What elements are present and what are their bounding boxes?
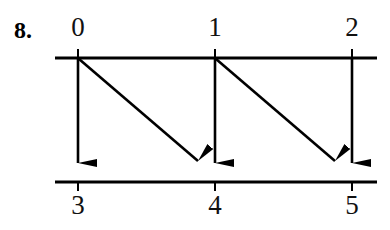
- arrow-1-to-5: [216, 59, 335, 161]
- node-label-0: 0: [58, 14, 98, 41]
- node-label-4: 4: [195, 192, 235, 219]
- node-label-3: 3: [58, 192, 98, 219]
- arrow-0-to-4: [79, 59, 198, 161]
- figure-container: 8. 0 1 2: [0, 0, 390, 230]
- node-label-2: 2: [332, 14, 372, 41]
- node-label-5: 5: [332, 192, 372, 219]
- node-label-1: 1: [195, 14, 235, 41]
